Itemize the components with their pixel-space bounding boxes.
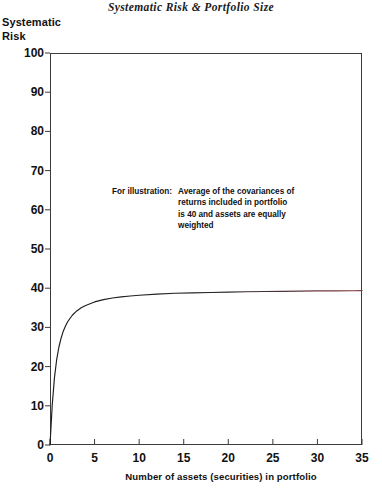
y-tick-label: 0 [0, 438, 44, 452]
x-tick-label: 5 [75, 451, 115, 465]
annotation-line: is 40 and assets are equally [178, 209, 294, 220]
annotation-line: Average of the covariances of [178, 186, 294, 197]
annotation-line: returns included in portfolio [178, 197, 294, 208]
x-tick-label: 20 [208, 451, 248, 465]
annotation-note: For illustration: Average of the covaria… [112, 186, 294, 232]
x-tick-label: 35 [342, 451, 382, 465]
x-axis-label: Number of assets (securities) in portfol… [0, 471, 382, 482]
y-tick-label: 60 [0, 203, 44, 217]
y-axis-ticks [45, 53, 50, 445]
plot-svg [50, 53, 362, 445]
y-axis-label-line1: Systematic [2, 16, 61, 30]
y-tick-label: 10 [0, 399, 44, 413]
annotation-lead: For illustration: [112, 186, 172, 197]
y-tick-label: 90 [0, 85, 44, 99]
y-tick-label: 70 [0, 164, 44, 178]
x-axis-ticks [50, 439, 362, 445]
y-tick-label: 100 [0, 46, 44, 60]
x-tick-label: 10 [119, 451, 159, 465]
y-tick-label: 50 [0, 242, 44, 256]
y-tick-label: 20 [0, 360, 44, 374]
annotation-line: weighted [178, 220, 294, 231]
y-tick-label: 40 [0, 281, 44, 295]
risk-curve [50, 291, 362, 445]
y-tick-label: 30 [0, 320, 44, 334]
x-tick-label: 25 [253, 451, 293, 465]
y-axis-label: Systematic Risk [2, 16, 61, 43]
x-tick-label: 30 [297, 451, 337, 465]
chart-figure: Systematic Risk & Portfolio Size Systema… [0, 0, 382, 491]
x-tick-label: 0 [30, 451, 70, 465]
y-tick-label: 80 [0, 124, 44, 138]
x-tick-label: 15 [164, 451, 204, 465]
page-title: Systematic Risk & Portfolio Size [0, 1, 382, 13]
y-axis-label-line2: Risk [2, 30, 61, 44]
annotation-body: Average of the covariances of returns in… [178, 186, 294, 232]
